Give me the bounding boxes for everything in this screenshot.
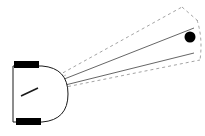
diagram-canvas xyxy=(0,0,205,136)
robot-sensor-diagram xyxy=(0,0,205,136)
top-wheel xyxy=(14,61,39,68)
target-dot xyxy=(185,32,196,43)
robot-body xyxy=(13,66,68,122)
bottom-wheel xyxy=(16,118,41,125)
